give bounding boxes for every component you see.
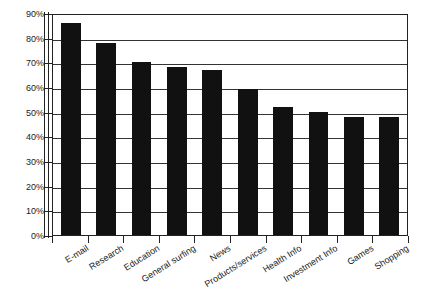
y-axis-tick-label: 70%	[26, 58, 44, 68]
y-axis-tick-mark	[44, 137, 53, 138]
x-axis-category-labels: E-mailResearchEducationGeneral surfingNe…	[52, 243, 408, 308]
x-axis-tick-mark	[408, 236, 409, 243]
x-axis-tick-mark	[159, 236, 160, 243]
bar-slot	[159, 15, 194, 235]
y-axis-tick-label: 30%	[26, 157, 44, 167]
bar	[61, 23, 81, 235]
x-axis-category-label: Research	[88, 243, 126, 272]
x-axis-category-label: E-mail	[63, 243, 90, 265]
y-axis-tick-mark	[44, 211, 53, 212]
bar	[132, 62, 152, 235]
y-axis-tick-label: 10%	[26, 206, 44, 216]
y-axis-tick-labels: 90%80%70%60%50%40%30%20%10%0%	[0, 0, 44, 308]
y-axis-outer-line	[44, 12, 45, 238]
bar-chart-figure: 90%80%70%60%50%40%30%20%10%0% E-mailRese…	[0, 0, 430, 308]
y-axis-tick-label: 60%	[26, 83, 44, 93]
x-axis-tick-mark	[301, 236, 302, 243]
bar	[344, 117, 364, 235]
x-axis-category-label: Products/services	[203, 243, 269, 289]
x-axis-tick-marks	[52, 236, 408, 243]
bar-slot	[195, 15, 230, 235]
y-axis-tick-mark	[44, 88, 53, 89]
y-axis-tick-label: 90%	[26, 9, 44, 19]
bar	[167, 67, 187, 235]
bar-slot	[88, 15, 123, 235]
bar-slot	[53, 15, 88, 235]
y-axis-tick-mark	[44, 39, 53, 40]
bar	[238, 89, 258, 235]
plot-area	[52, 14, 408, 236]
bar	[379, 117, 399, 235]
y-axis-tick-mark	[44, 14, 53, 15]
y-axis-tick-label: 0%	[31, 231, 44, 241]
x-axis-category-label: News	[208, 243, 232, 263]
bar	[273, 107, 293, 235]
bar-slot	[265, 15, 300, 235]
bars-container	[53, 15, 407, 235]
bar-slot	[372, 15, 407, 235]
y-axis-tick-mark	[44, 113, 53, 114]
x-axis-tick-mark	[52, 236, 53, 243]
x-axis-tick-mark	[372, 236, 373, 243]
x-axis-tick-mark	[123, 236, 124, 243]
y-axis-tick-label: 40%	[26, 132, 44, 142]
x-axis-tick-mark	[88, 236, 89, 243]
y-axis-tick-mark	[44, 162, 53, 163]
y-axis-tick-mark	[44, 236, 53, 237]
x-axis-tick-mark	[230, 236, 231, 243]
y-axis-tick-mark	[44, 187, 53, 188]
bar-slot	[301, 15, 336, 235]
y-axis-tick-label: 80%	[26, 34, 44, 44]
bar-slot	[230, 15, 265, 235]
bar-slot	[336, 15, 371, 235]
x-axis-category-label: Games	[345, 243, 375, 267]
x-axis-category-label: Shopping	[373, 243, 411, 272]
bar	[96, 43, 116, 235]
x-axis-tick-mark	[194, 236, 195, 243]
x-axis-tick-mark	[266, 236, 267, 243]
bar	[202, 70, 222, 235]
y-axis-tick-label: 50%	[26, 108, 44, 118]
y-axis-inner-line	[48, 12, 49, 238]
x-axis-tick-mark	[337, 236, 338, 243]
y-axis-tick-mark	[44, 63, 53, 64]
y-axis-tick-label: 20%	[26, 182, 44, 192]
bar	[309, 112, 329, 235]
bar-slot	[124, 15, 159, 235]
